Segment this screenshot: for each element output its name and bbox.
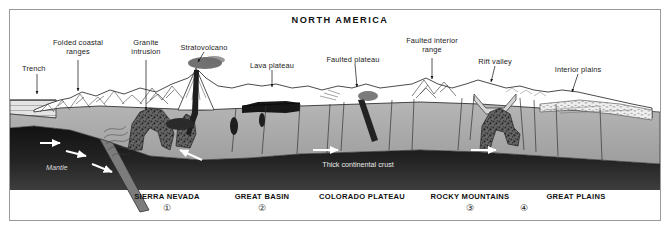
label-thick-continental-crust: Thick continental crust: [322, 160, 394, 169]
callout-faulted-interior-range: Faulted interior range: [402, 36, 462, 54]
faulted-plateau-vent-smoke: [358, 91, 378, 101]
region-colorado-plateau: COLORADO PLATEAU: [319, 192, 405, 201]
callout-rift-valley: Rift valley: [478, 57, 512, 66]
region-sierra-nevada: SIERRA NEVADA: [134, 192, 199, 201]
leader-faulted-plateau: [355, 64, 357, 87]
figure-root: NORTH AMERICA Trench Folded coastal rang…: [0, 0, 670, 232]
basin-magma-blob-2: [259, 113, 265, 127]
region-great-basin: GREAT BASIN: [235, 192, 290, 201]
figure-title: NORTH AMERICA: [292, 15, 389, 25]
callout-interior-plains: Interior plains: [555, 65, 602, 74]
callout-folded-coastal-ranges: Folded coastal ranges: [43, 38, 113, 56]
callout-stratovolcano: Stratovolcano: [180, 43, 227, 52]
callout-granite-intrusion: Granite intrusion: [119, 38, 173, 56]
callout-trench: Trench: [22, 64, 46, 73]
basin-magma-blob-1: [230, 117, 238, 135]
marker-number-2: ②: [258, 203, 266, 213]
region-great-plains: GREAT PLAINS: [546, 192, 605, 201]
label-mantle: Mantle: [46, 163, 68, 172]
leader-interior-plains: [572, 74, 578, 92]
marker-number-3: ③: [466, 203, 474, 213]
marker-number-1: ①: [163, 203, 171, 213]
leader-rift-valley: [491, 66, 495, 82]
callout-lava-plateau: Lava plateau: [250, 61, 294, 70]
magma-chamber: [166, 118, 194, 130]
region-rocky-mountains: ROCKY MOUNTAINS: [431, 192, 510, 201]
volcanic-ash-plume-2: [203, 56, 225, 64]
marker-number-4: ④: [520, 203, 528, 213]
callout-faulted-plateau: Faulted plateau: [326, 55, 379, 64]
